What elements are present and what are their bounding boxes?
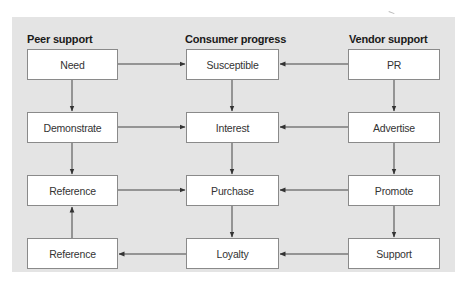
node-promote: Promote bbox=[348, 175, 440, 206]
node-purchase: Purchase bbox=[186, 175, 279, 206]
node-support: Support bbox=[348, 238, 440, 269]
node-loyalty: Loyalty bbox=[186, 238, 279, 269]
node-susceptible: Susceptible bbox=[186, 49, 279, 80]
node-pr: PR bbox=[348, 49, 440, 80]
node-interest: Interest bbox=[186, 112, 279, 143]
node-reference-lower: Reference bbox=[27, 238, 118, 269]
node-reference-upper: Reference bbox=[27, 175, 118, 206]
node-demonstrate: Demonstrate bbox=[27, 112, 118, 143]
node-need: Need bbox=[27, 49, 118, 80]
node-advertise: Advertise bbox=[348, 112, 440, 143]
